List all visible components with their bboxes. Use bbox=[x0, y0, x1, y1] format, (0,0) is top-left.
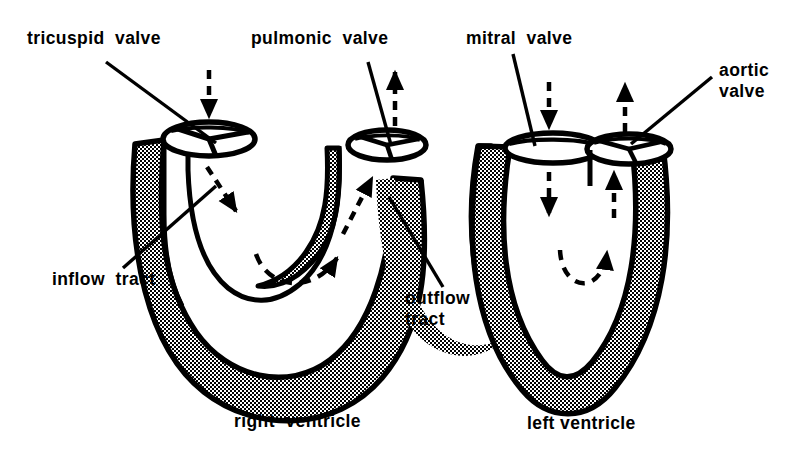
label-outflow-tract: outflow tract bbox=[405, 288, 470, 329]
lv-wall-band bbox=[472, 146, 667, 414]
label-mitral-valve: mitral valve bbox=[466, 28, 572, 49]
label-inflow-tract: inflow tract bbox=[52, 269, 155, 290]
rv-septal-limb bbox=[258, 148, 339, 286]
leader-tricuspid bbox=[106, 62, 216, 143]
diagram-canvas bbox=[0, 0, 804, 454]
rv-outflow-internal-arrow bbox=[343, 178, 372, 234]
label-tricuspid-valve: tricuspid valve bbox=[27, 28, 161, 49]
leader-aortic bbox=[631, 77, 712, 144]
caption-left-ventricle: left ventricle bbox=[527, 413, 636, 434]
left-ventricle-figure bbox=[471, 82, 671, 414]
heart-ventricle-diagram: tricuspid valve pulmonic valve mitral va… bbox=[0, 0, 804, 454]
lv-apical-dashed-arrow bbox=[560, 250, 607, 283]
aortic-valve-orifice bbox=[587, 134, 671, 164]
leader-mitral bbox=[513, 54, 535, 146]
label-pulmonic-valve: pulmonic valve bbox=[251, 28, 388, 49]
caption-right-ventricle: right ventricle bbox=[234, 411, 361, 432]
label-aortic-valve: aortic valve bbox=[719, 60, 769, 101]
